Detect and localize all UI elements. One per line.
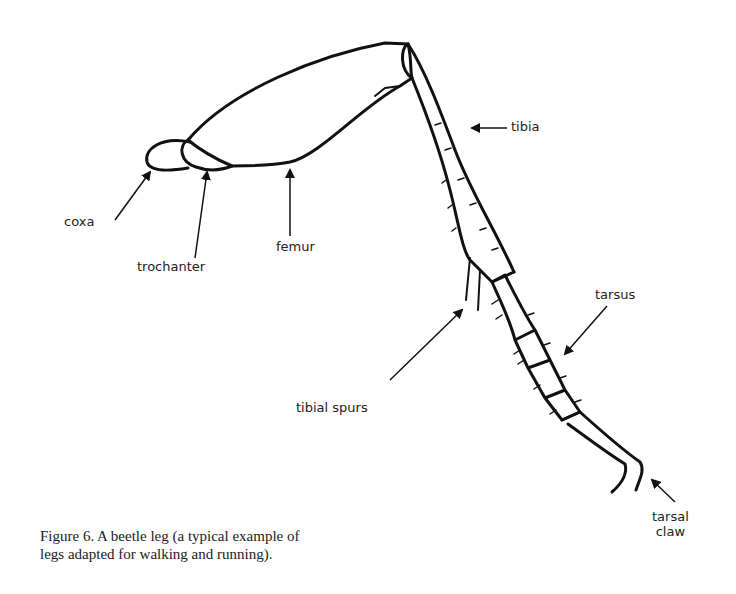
label-coxa: coxa [64, 215, 94, 230]
label-trochanter: trochanter [137, 260, 205, 275]
label-tarsal-claw-line1: tarsal [652, 510, 689, 525]
coxa-arrow [115, 172, 150, 220]
label-tarsus: tarsus [595, 288, 635, 303]
tibial-spurs-arrow [390, 310, 462, 380]
caption-line-1: Figure 6. A beetle leg (a typical exampl… [40, 527, 420, 545]
caption-line-2: legs adapted for walking and running). [40, 545, 420, 563]
tarsus-arrow [565, 306, 607, 354]
label-tarsal-claw-line2: claw [652, 525, 689, 540]
trochanter-arrow [195, 172, 207, 258]
tarsal-claw-shape [562, 412, 642, 492]
label-tibia: tibia [511, 120, 540, 135]
femur-shape [188, 43, 412, 166]
label-femur: femur [276, 240, 315, 255]
tarsus-shape [492, 275, 580, 420]
label-tarsal-claw: tarsal claw [652, 510, 689, 540]
figure-caption: Figure 6. A beetle leg (a typical exampl… [40, 527, 420, 563]
trochanter-shape [182, 140, 232, 170]
tarsal-claw-arrow [652, 480, 675, 502]
label-tibial-spurs: tibial spurs [296, 401, 368, 416]
